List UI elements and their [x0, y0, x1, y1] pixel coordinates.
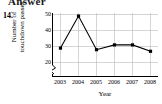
x-axis-tick-labels: 2003 2004 2005 2006 2007 2008: [52, 79, 162, 89]
x-tick-label: 2003: [54, 79, 66, 86]
line-chart-plot-area: [52, 13, 158, 77]
horizontal-gridlines: [52, 15, 158, 63]
x-tick-label: 2007: [126, 79, 138, 86]
x-tick-label: 2008: [144, 79, 156, 86]
data-line-touchdown-passes: [61, 16, 151, 51]
x-tick-label: 2005: [90, 79, 102, 86]
vertical-gridlines: [61, 13, 151, 77]
data-point-2004: [77, 15, 80, 18]
data-point-2005: [95, 48, 98, 51]
y-axis-tick-labels: 50 40 30 20: [38, 0, 51, 104]
y-axis-break-symbol: [52, 65, 56, 74]
x-tick-label: 2004: [72, 79, 84, 86]
y-axis-title-line1: Number of: [10, 2, 18, 53]
data-point-2007: [131, 43, 134, 46]
worksheet-page: Answer 14. Number of touchdown passes 50…: [0, 0, 162, 104]
y-tick-label: 20: [39, 59, 51, 65]
data-point-2003: [59, 47, 62, 50]
y-tick-label: 40: [39, 27, 51, 33]
y-axis-title-line2: touchdown passes: [18, 2, 26, 53]
y-tick-label: 30: [39, 43, 51, 49]
y-tick-label: 50: [39, 11, 51, 17]
data-point-2006: [113, 43, 116, 46]
chart-svg: [52, 13, 158, 77]
y-axis-title: Number of touchdown passes: [7, 0, 29, 58]
x-tick-label: 2006: [108, 79, 120, 86]
data-point-2008: [149, 50, 152, 53]
x-axis-title: Year: [52, 90, 158, 98]
